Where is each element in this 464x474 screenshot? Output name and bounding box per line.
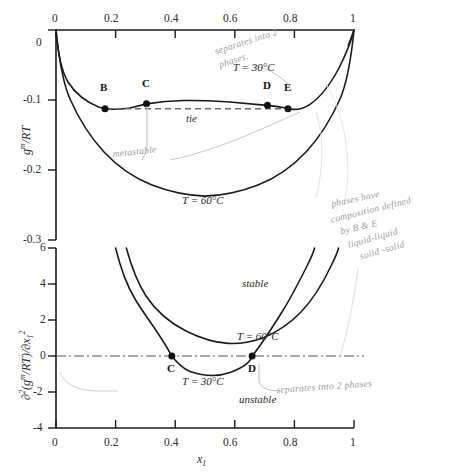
tie-label: tie bbox=[186, 112, 197, 124]
partial-symbol: ∂ bbox=[19, 394, 33, 400]
top-point-label-D: D bbox=[263, 79, 271, 91]
top-point-B bbox=[102, 105, 109, 112]
top-x-tick-label-0.6: 0.6 bbox=[223, 12, 237, 24]
handwritten-note-phases-composition: phases have composition defined by B & E… bbox=[330, 184, 419, 264]
separates-bottom-leader-2 bbox=[60, 372, 118, 391]
rt-partial-x: /RT)/∂x bbox=[19, 338, 33, 374]
top-x-tick-label-1: 1 bbox=[350, 12, 356, 24]
top-panel-y-axis-title: gm/RT bbox=[18, 126, 34, 155]
bottom-curve-t30 bbox=[116, 248, 315, 375]
top-x-tick-label-0: 0 bbox=[52, 12, 58, 24]
top-y-tick-label--0.1: -0.1 bbox=[23, 93, 41, 105]
top-panel bbox=[48, 30, 354, 240]
note-leader-right-2 bbox=[326, 84, 348, 206]
bottom-panel bbox=[48, 248, 364, 428]
paren-open: ( bbox=[19, 386, 33, 390]
g-superscript: m bbox=[18, 374, 27, 380]
x-subscript: 1 bbox=[202, 459, 206, 468]
bottom-y-tick-label-0: 0 bbox=[40, 349, 46, 361]
bottom-curve-label-t60: T = 60°C bbox=[237, 330, 279, 342]
top-x-tick-label-0.4: 0.4 bbox=[164, 12, 178, 24]
bottom-y-tick-label--4: -4 bbox=[33, 421, 43, 433]
top-y-tick-label--0.2: -0.2 bbox=[23, 163, 41, 175]
bottom-panel-x-axis-title: x1 bbox=[197, 452, 206, 468]
x-subscript-bottom: 1 bbox=[26, 335, 35, 339]
bottom-point-C bbox=[168, 353, 175, 360]
bottom-x-tick-label-0: 0 bbox=[52, 436, 58, 448]
top-point-D bbox=[264, 102, 271, 109]
gm-symbol-g: g bbox=[19, 149, 33, 155]
top-point-C bbox=[143, 100, 150, 107]
bottom-curve-label-t30: T = 30°C bbox=[182, 375, 224, 387]
note-leader-bottom bbox=[340, 268, 358, 356]
region-label-stable: stable bbox=[242, 277, 268, 289]
bottom-x-tick-label-1: 1 bbox=[350, 436, 356, 448]
top-curve-t30 bbox=[56, 30, 354, 109]
x-superscript-bottom: 2 bbox=[18, 331, 27, 335]
gm-symbol-sup: m bbox=[18, 143, 27, 149]
top-origin-label: 0 bbox=[36, 36, 42, 48]
bottom-y-tick-label-6: 6 bbox=[40, 241, 46, 253]
top-point-E bbox=[285, 105, 292, 112]
top-point-label-E: E bbox=[284, 81, 291, 93]
gm-symbol-rest: /RT bbox=[19, 126, 33, 143]
bottom-point-label-C: C bbox=[167, 362, 175, 374]
top-point-label-C: C bbox=[142, 77, 150, 89]
partial-superscript: 2 bbox=[18, 390, 27, 394]
bottom-panel-y-axis-title: ∂2(gm/RT)/∂x12 bbox=[18, 331, 35, 400]
g-symbol: g bbox=[19, 380, 33, 386]
bottom-x-tick-label-0.6: 0.6 bbox=[223, 436, 237, 448]
top-curve-label-t60: T = 60°C bbox=[182, 194, 224, 206]
bottom-y-tick-label-2: 2 bbox=[40, 313, 46, 325]
bottom-x-tick-label-0.4: 0.4 bbox=[164, 436, 178, 448]
bottom-curve-t60 bbox=[126, 248, 338, 344]
note-leader-right bbox=[316, 112, 322, 198]
region-label-unstable: unstable bbox=[239, 393, 276, 405]
bottom-x-tick-label-0.2: 0.2 bbox=[104, 436, 118, 448]
top-x-tick-label-0.8: 0.8 bbox=[283, 12, 297, 24]
top-curve-t60 bbox=[56, 30, 354, 196]
top-x-tick-label-0.2: 0.2 bbox=[104, 12, 118, 24]
bottom-point-label-D: D bbox=[248, 362, 256, 374]
top-y-tick-label--0.3: -0.3 bbox=[23, 233, 41, 245]
bottom-x-tick-label-0.8: 0.8 bbox=[283, 436, 297, 448]
top-point-label-B: B bbox=[100, 81, 107, 93]
bottom-y-tick-label-4: 4 bbox=[40, 277, 46, 289]
bottom-point-D bbox=[249, 353, 256, 360]
